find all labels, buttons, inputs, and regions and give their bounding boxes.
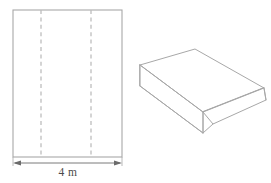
- sheet-metal-figure: 4 m: [0, 0, 271, 183]
- folded-shape-group: [140, 49, 266, 133]
- flat-sheet-outline: [13, 10, 122, 157]
- width-dimension-label: 4 m: [59, 166, 78, 178]
- dimension-arrowhead-right-icon: [114, 161, 122, 166]
- channel-right-lower-edge: [203, 124, 213, 133]
- figure-container: 4 m: [0, 0, 271, 183]
- dimension-arrowhead-left-icon: [13, 161, 21, 166]
- flat-sheet-group: [13, 10, 122, 157]
- width-dimension-group: 4 m: [13, 157, 122, 178]
